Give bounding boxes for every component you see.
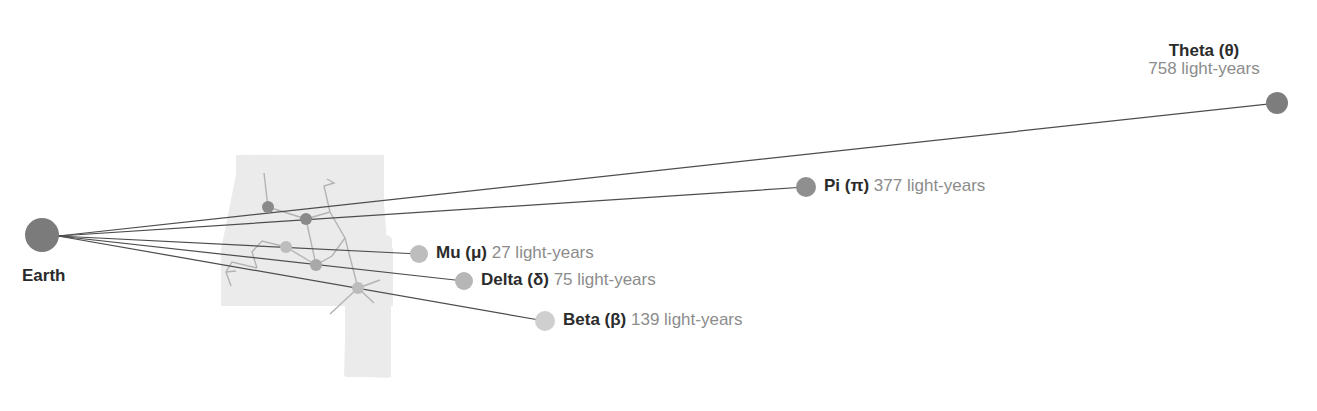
- star-node-theta[interactable]: [1266, 92, 1288, 114]
- star-nodes: [410, 92, 1288, 331]
- field-star-node: [300, 213, 312, 225]
- star-distance-mu: 27 light-years: [487, 243, 594, 262]
- star-node-pi[interactable]: [796, 177, 816, 197]
- field-star-node: [352, 282, 364, 294]
- sight-line-pi: [58, 187, 806, 236]
- star-name-mu: Mu (μ): [436, 243, 487, 262]
- star-name-beta: Beta (β): [563, 310, 626, 329]
- constellation-region: [221, 155, 393, 378]
- star-label-delta: Delta (δ) 75 light-years: [481, 271, 656, 289]
- star-label-mu: Mu (μ) 27 light-years: [436, 244, 594, 262]
- origin-node-earth[interactable]: [25, 218, 59, 252]
- star-label-theta: Theta (θ)758 light-years: [1145, 42, 1263, 79]
- constellation-region-tail: [345, 304, 391, 377]
- star-distance-theta: 758 light-years: [1145, 60, 1263, 78]
- star-name-theta: Theta (θ): [1145, 42, 1263, 60]
- star-node-mu[interactable]: [410, 245, 428, 263]
- star-name-pi: Pi (π): [824, 176, 869, 195]
- origin-node-group: [25, 218, 59, 252]
- earth-label: Earth: [22, 266, 65, 286]
- diagram-canvas: [0, 0, 1317, 411]
- star-name-delta: Delta (δ): [481, 270, 549, 289]
- star-distance-beta: 139 light-years: [626, 310, 742, 329]
- star-node-beta[interactable]: [535, 311, 555, 331]
- constellation-line-j: [226, 271, 236, 272]
- field-star-node: [262, 201, 274, 213]
- star-distance-delta: 75 light-years: [549, 270, 656, 289]
- star-label-beta: Beta (β) 139 light-years: [563, 311, 743, 329]
- star-distance-diagram: Earth Theta (θ)758 light-yearsPi (π) 377…: [0, 0, 1317, 411]
- field-star-node: [280, 241, 292, 253]
- field-star-node: [310, 259, 322, 271]
- star-node-delta[interactable]: [455, 272, 473, 290]
- star-distance-pi: 377 light-years: [869, 176, 985, 195]
- star-label-pi: Pi (π) 377 light-years: [824, 177, 985, 195]
